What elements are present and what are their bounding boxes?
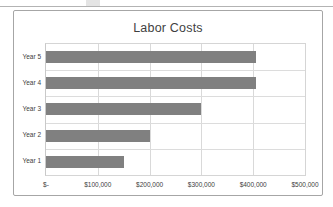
page-top-artifact [86, 0, 100, 6]
bar-year-5[interactable] [46, 51, 256, 63]
bar-row: Year 1 [46, 149, 305, 175]
bar-row: Year 5 [46, 44, 305, 70]
bar-year-1[interactable] [46, 156, 124, 168]
bar-row: Year 3 [46, 96, 305, 122]
bar-year-4[interactable] [46, 77, 256, 89]
bar-row: Year 2 [46, 123, 305, 149]
plot-area: Year 5Year 4Year 3Year 2Year 1$-$100,000… [45, 43, 306, 176]
bar-year-2[interactable] [46, 130, 150, 142]
category-label-year-1: Year 1 [22, 157, 41, 164]
x-tick-label: $200,000 [136, 181, 163, 188]
bar-row: Year 4 [46, 70, 305, 96]
category-label-year-3: Year 3 [22, 105, 41, 112]
chart-container[interactable]: Labor Costs Year 5Year 4Year 3Year 2Year… [13, 10, 323, 196]
category-label-year-2: Year 2 [22, 131, 41, 138]
x-tick-label: $500,000 [291, 181, 318, 188]
x-tick-label: $100,000 [84, 181, 111, 188]
x-tick-label: $300,000 [188, 181, 215, 188]
x-tick-label: $- [43, 181, 49, 188]
bar-year-3[interactable] [46, 103, 201, 115]
x-tick-label: $400,000 [240, 181, 267, 188]
page-top-rule [0, 6, 333, 7]
category-label-year-5: Year 5 [22, 53, 41, 60]
chart-title: Labor Costs [14, 21, 322, 35]
category-label-year-4: Year 4 [22, 79, 41, 86]
